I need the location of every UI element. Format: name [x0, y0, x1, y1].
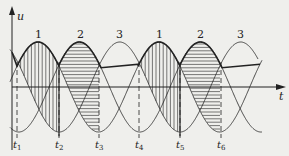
time-label-t3: t3 [95, 139, 104, 152]
time-label-t4: t4 [135, 139, 144, 152]
phase-label: 2 [77, 28, 84, 41]
x-axis-label: t [279, 90, 284, 103]
time-mark-dashed-lines [17, 62, 221, 138]
phase-labels: 123123 [35, 28, 244, 41]
y-axis-arrow-icon [9, 6, 15, 15]
phase-label: 1 [156, 28, 163, 41]
y-axis-label: u [17, 10, 24, 23]
time-label-t6: t6 [217, 139, 226, 152]
time-label-t2: t2 [55, 139, 64, 152]
time-labels: t1t2t3t4t5t6 [13, 139, 226, 152]
time-label-t1: t1 [13, 139, 22, 152]
three-phase-rectifier-waveform: u t 123123 t1t2t3t4t5t6 [0, 0, 289, 156]
phase-label: 1 [35, 28, 42, 41]
phase-label: 3 [237, 28, 244, 41]
time-label-t5: t5 [176, 139, 185, 152]
phase-label: 3 [116, 28, 123, 41]
phase-label: 2 [197, 28, 204, 41]
